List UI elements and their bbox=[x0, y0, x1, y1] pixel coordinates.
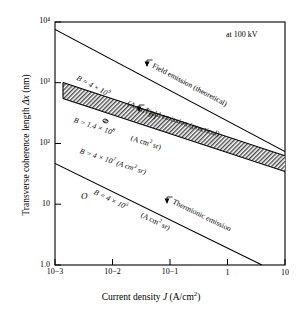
x-tick-label-3: 1 bbox=[208, 268, 248, 277]
x-tick-label-4: 10 bbox=[265, 268, 302, 277]
x-axis-title-units: (A/cm2) bbox=[170, 292, 201, 302]
x-axis-title-var: J bbox=[163, 292, 167, 302]
x-tick-label-2: 10−1 bbox=[150, 267, 190, 276]
x-axis-title-main: Current density bbox=[102, 292, 161, 302]
voltage-note: at 100 kV bbox=[226, 30, 258, 39]
x-axis-title: Current density J (A/cm2) bbox=[0, 290, 302, 302]
x-tick-label-1: 10−2 bbox=[93, 267, 133, 276]
origin-marker-label: O bbox=[81, 191, 88, 201]
chart-figure: at 100 kV 10−3 10−2 10−1 1 10 10⁴ 10³ 10… bbox=[0, 0, 302, 312]
plot-frame bbox=[55, 22, 285, 265]
y-axis-title: Transverse coherence length Δx (nm) bbox=[21, 15, 31, 275]
